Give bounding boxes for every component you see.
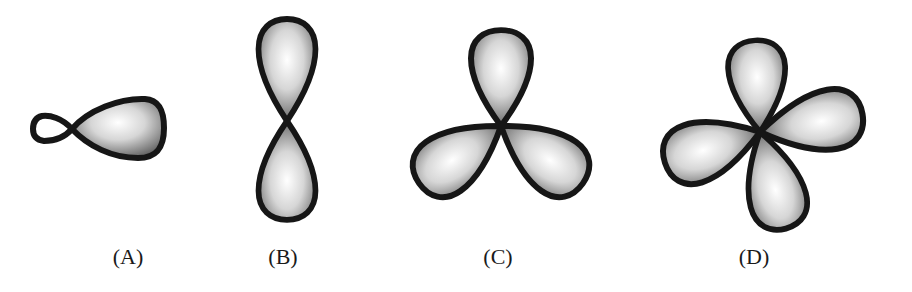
- label-c: (C): [483, 244, 512, 270]
- orbital-figure: (A) (B) (C) (D): [0, 0, 912, 292]
- orbital-d: [656, 39, 868, 236]
- orbital-a-small-lobe: [33, 116, 72, 141]
- label-d: (D): [739, 244, 770, 270]
- label-b: (B): [268, 244, 297, 270]
- label-a: (A): [113, 244, 144, 270]
- orbital-b-upper-lobe: [259, 19, 316, 121]
- orbital-a: [33, 99, 164, 158]
- orbital-c: [402, 30, 600, 208]
- orbital-c-top-lobe: [471, 30, 531, 126]
- orbital-b-lower-lobe: [259, 121, 316, 220]
- orbital-b: [259, 19, 316, 220]
- orbital-a-large-lobe: [72, 99, 164, 158]
